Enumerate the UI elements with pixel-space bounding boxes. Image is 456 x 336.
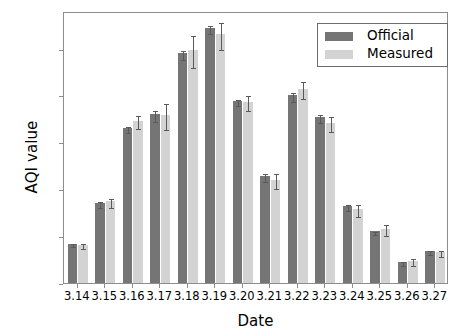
error-bar-cap: [301, 82, 306, 83]
error-bar-cap: [126, 133, 131, 134]
x-axis-tick-label: 3.25: [366, 289, 392, 303]
bar-measured: [133, 121, 143, 283]
x-axis-tick-mark: [407, 284, 408, 288]
error-bar: [358, 205, 359, 216]
bar-official: [178, 53, 188, 283]
error-bar-cap: [401, 266, 406, 267]
error-bar: [293, 93, 294, 102]
error-bar-cap: [71, 247, 76, 248]
x-axis-tick-mark: [187, 284, 188, 288]
x-axis-tick-label: 3.26: [394, 289, 420, 303]
error-bar-cap: [164, 130, 169, 131]
error-bar: [413, 259, 414, 267]
error-bar-cap: [219, 23, 224, 24]
bar-official: [260, 176, 270, 283]
bar-measured: [161, 115, 171, 283]
x-axis-tick-mark: [324, 284, 325, 288]
error-bar-cap: [356, 217, 361, 218]
error-bar-cap: [329, 132, 334, 133]
error-bar-cap: [384, 225, 389, 226]
x-axis-tick-mark: [379, 284, 380, 288]
error-bar-cap: [318, 115, 323, 116]
error-bar-cap: [208, 26, 213, 27]
error-bar-cap: [401, 262, 406, 263]
bar-measured: [271, 180, 281, 283]
error-bar-cap: [274, 189, 279, 190]
error-bar-cap: [346, 205, 351, 206]
error-bar: [303, 82, 304, 99]
bar-measured: [106, 201, 116, 283]
bar-measured: [216, 34, 226, 283]
error-bar-cap: [384, 236, 389, 237]
bar-measured: [353, 209, 363, 283]
bar-measured: [326, 123, 336, 283]
error-bar-cap: [219, 50, 224, 51]
error-bar-cap: [411, 259, 416, 260]
error-bar: [111, 199, 112, 208]
error-bar-cap: [109, 199, 114, 200]
x-axis-tick-mark: [159, 284, 160, 288]
x-axis-tick-mark: [434, 284, 435, 288]
error-bar-cap: [439, 251, 444, 252]
error-bar-cap: [439, 257, 444, 258]
bar-official: [123, 128, 133, 283]
error-bar-cap: [153, 111, 158, 112]
error-bar-cap: [109, 208, 114, 209]
bar-measured: [243, 102, 253, 283]
error-bar-cap: [318, 123, 323, 124]
bar-official: [370, 231, 380, 283]
error-bar-cap: [428, 251, 433, 252]
error-bar-cap: [126, 127, 131, 128]
x-axis-tick-label: 3.24: [339, 289, 365, 303]
legend-swatch-measured-icon: [325, 50, 353, 59]
x-axis-tick-label: 3.19: [201, 289, 227, 303]
error-bar-cap: [246, 111, 251, 112]
error-bar-cap: [164, 104, 169, 105]
x-axis-tick-label: 3.20: [229, 289, 255, 303]
error-bar: [138, 116, 139, 129]
error-bar-cap: [136, 116, 141, 117]
error-bar: [265, 174, 266, 182]
error-bar-cap: [191, 36, 196, 37]
error-bar: [210, 26, 211, 34]
x-axis-tick-mark: [77, 284, 78, 288]
error-bar-cap: [356, 205, 361, 206]
error-bar: [183, 51, 184, 60]
x-axis-tick-label: 3.17: [146, 289, 172, 303]
error-bar: [276, 174, 277, 189]
error-bar-cap: [98, 202, 103, 203]
x-axis-tick-label: 3.27: [421, 289, 447, 303]
error-bar-cap: [263, 182, 268, 183]
error-bar-cap: [301, 99, 306, 100]
error-bar-cap: [191, 68, 196, 69]
error-bar-cap: [274, 174, 279, 175]
error-bar-cap: [181, 51, 186, 52]
legend-swatch-official-icon: [325, 32, 353, 41]
bar-official: [288, 95, 298, 283]
bar-official: [233, 101, 243, 283]
chart-legend: Official Measured: [317, 23, 448, 67]
x-axis-tick-mark: [104, 284, 105, 288]
legend-label-measured: Measured: [367, 45, 433, 61]
error-bar-cap: [81, 244, 86, 245]
error-bar: [166, 104, 167, 130]
error-bar: [155, 111, 156, 122]
bar-measured: [298, 89, 308, 283]
error-bar-cap: [81, 249, 86, 250]
error-bar: [320, 115, 321, 123]
x-axis-tick-mark: [242, 284, 243, 288]
bar-official: [150, 114, 160, 283]
x-axis-tick-mark: [132, 284, 133, 288]
x-axis-tick-mark: [352, 284, 353, 288]
x-axis-tick-mark: [214, 284, 215, 288]
x-axis-tick-label: 3.18: [174, 289, 200, 303]
error-bar-cap: [98, 208, 103, 209]
bar-official: [315, 117, 325, 283]
error-bar-cap: [236, 100, 241, 101]
x-axis-title: Date: [63, 312, 448, 330]
error-bar-cap: [329, 117, 334, 118]
error-bar-cap: [411, 266, 416, 267]
bar-official: [343, 206, 353, 283]
y-axis-tick-mark: [59, 284, 63, 285]
x-axis-tick-mark: [297, 284, 298, 288]
